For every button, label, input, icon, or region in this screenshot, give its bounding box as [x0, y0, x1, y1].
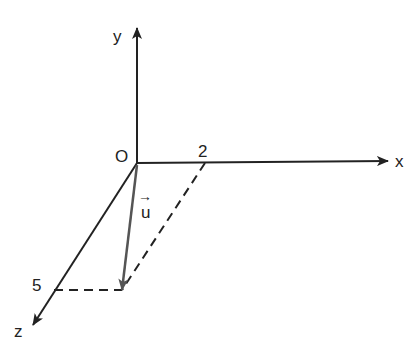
vector-u-label: u	[141, 203, 150, 222]
vector-diagram: y x z O 2 5 → u	[0, 0, 407, 353]
y-axis-label: y	[113, 27, 122, 46]
x-axis	[137, 161, 388, 163]
vector-u-arrow-glyph: →	[138, 188, 152, 204]
diagram-canvas: y x z O 2 5 → u	[0, 0, 407, 353]
x-tick-label: 2	[198, 142, 207, 161]
z-axis	[33, 163, 137, 325]
origin-label: O	[115, 147, 128, 166]
z-tick-label: 5	[32, 276, 41, 295]
z-axis-label: z	[14, 322, 23, 341]
x-axis-label: x	[395, 152, 404, 171]
